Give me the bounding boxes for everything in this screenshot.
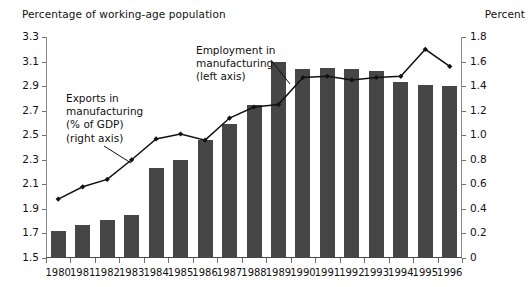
callout-leader-lines xyxy=(0,0,531,287)
exports-leader-line xyxy=(104,146,131,163)
chart-container: Percentage of working-age population Per… xyxy=(0,0,531,287)
employment-leader-line xyxy=(271,60,290,84)
